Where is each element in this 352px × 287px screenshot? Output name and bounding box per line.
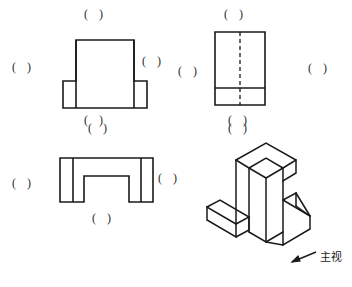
iso-edge-4 [207, 207, 236, 237]
side-view-group [215, 32, 265, 105]
blank-top-bottom[interactable]: ( ) [92, 212, 115, 224]
blank-side-right[interactable]: ( ) [308, 62, 331, 74]
iso-edge-7 [249, 168, 283, 242]
technical-drawing-canvas [0, 0, 352, 287]
isometric-view-group [207, 143, 310, 245]
iso-edge-8 [249, 168, 266, 178]
iso-edge-9 [266, 181, 283, 242]
iso-edge-13 [296, 206, 310, 216]
top-view-outline [60, 158, 153, 202]
iso-edge-3 [283, 160, 296, 168]
blank-side-left[interactable]: ( ) [178, 65, 201, 77]
blank-front-right[interactable]: ( ) [142, 55, 165, 67]
iso-edge-5 [207, 200, 249, 224]
blank-top-upper[interactable]: ( ) [88, 122, 111, 134]
blank-iso-top[interactable]: ( ) [228, 122, 251, 134]
blank-side-top[interactable]: ( ) [224, 8, 247, 20]
blank-top-right[interactable]: ( ) [158, 172, 181, 184]
front-view-group [63, 40, 147, 108]
blank-front-left[interactable]: ( ) [12, 61, 35, 73]
top-view-group [60, 158, 153, 202]
main-view-direction-label: 主视 [320, 252, 342, 263]
arrow-head-icon [292, 256, 300, 262]
blank-front-top[interactable]: ( ) [84, 8, 107, 20]
exercise-sheet: ( ) ( ) ( ) ( ) ( ) ( ) ( ) ( ) ( ) ( ) … [0, 0, 352, 287]
iso-edge-14 [266, 242, 283, 245]
iso-edge-2 [236, 160, 249, 168]
blank-top-left[interactable]: ( ) [12, 177, 35, 189]
view-direction-arrow-group [292, 252, 316, 262]
